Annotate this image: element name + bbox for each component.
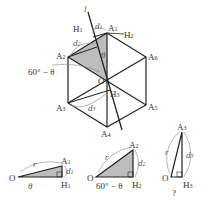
triangle-1: O A1 H1 r d1 θ <box>9 156 74 191</box>
label-a6: A6 <box>148 52 158 62</box>
svg-text:r: r <box>33 159 37 169</box>
perp-a3-h3 <box>68 90 110 103</box>
svg-text:?: ? <box>172 188 176 198</box>
triangle-3: O A3 H3 r d3 ? <box>162 122 194 198</box>
svg-text:H2: H2 <box>132 180 142 190</box>
label-d1: d1 <box>95 21 103 31</box>
svg-text:d1: d1 <box>66 166 74 176</box>
label-o: O <box>98 76 105 86</box>
label-h1: H1 <box>73 24 83 34</box>
svg-text:A3: A3 <box>177 122 187 132</box>
triangle-2: O A2 H2 r d2 60° − θ <box>87 140 146 191</box>
label-a4: A4 <box>101 129 111 139</box>
svg-text:O: O <box>9 173 16 183</box>
svg-text:d3: d3 <box>186 150 194 160</box>
label-h3: H3 <box>110 89 120 99</box>
svg-text:r: r <box>105 152 109 162</box>
label-theta: θ <box>101 50 106 60</box>
svg-text:d2: d2 <box>138 158 146 168</box>
svg-text:H3: H3 <box>183 180 193 190</box>
svg-text:O: O <box>162 173 169 183</box>
svg-text:r: r <box>165 147 169 157</box>
label-a2: A2 <box>56 51 66 61</box>
svg-text:θ: θ <box>28 181 33 191</box>
label-60-minus-theta: 60° − θ <box>28 67 55 77</box>
svg-text:O: O <box>87 173 94 183</box>
svg-text:60° − θ: 60° − θ <box>96 181 123 191</box>
label-a3: A3 <box>56 103 66 113</box>
label-a1: A1 <box>108 23 118 33</box>
label-l: l <box>84 4 87 14</box>
svg-text:A2: A2 <box>129 140 139 150</box>
label-d3: d3 <box>88 103 96 113</box>
h2-leader <box>107 33 124 34</box>
svg-text:H1: H1 <box>61 180 71 190</box>
svg-text:A1: A1 <box>61 156 71 166</box>
label-d2: d2 <box>73 38 81 48</box>
label-h2: H2 <box>124 30 134 40</box>
hexagon-distance-diagram: l H1 d1 A1 H2 d2 A2 A6 θ 60° − θ O H3 A3… <box>0 0 205 206</box>
label-a5: A5 <box>148 102 158 112</box>
